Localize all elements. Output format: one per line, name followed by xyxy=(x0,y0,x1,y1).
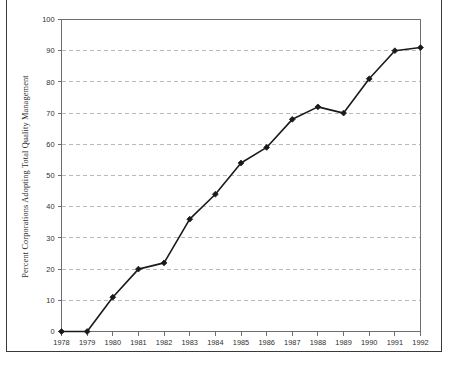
y-axis-tick-label: 100 xyxy=(42,15,54,24)
chart-page: Percent Corporations Adopting Total Qual… xyxy=(0,0,449,366)
data-point-marker xyxy=(315,104,321,110)
x-axis-tick-label: 1987 xyxy=(284,338,300,347)
data-point-marker xyxy=(59,329,65,335)
x-axis-tick-label: 1990 xyxy=(361,338,377,347)
y-axis-tick-label: 20 xyxy=(46,265,54,274)
x-axis-tick-label: 1983 xyxy=(181,338,197,347)
x-axis-ticks-group: 1978197919801981198219831984198519861987… xyxy=(53,332,428,348)
y-axis-tick-label: 80 xyxy=(46,78,54,87)
y-axis-tick-label: 60 xyxy=(46,140,54,149)
y-axis-tick-label: 10 xyxy=(46,296,54,305)
y-axis-tick-label: 40 xyxy=(46,202,54,211)
y-axis-tick-label: 90 xyxy=(46,46,54,55)
x-axis-tick-label: 1988 xyxy=(310,338,326,347)
chart-plot-svg: 0102030405060708090100 19781979198019811… xyxy=(0,0,449,366)
x-axis-tick-label: 1991 xyxy=(387,338,403,347)
x-axis-tick-label: 1982 xyxy=(156,338,172,347)
data-point-marker xyxy=(418,45,424,51)
x-axis-tick-label: 1992 xyxy=(412,338,428,347)
x-axis-tick-label: 1989 xyxy=(335,338,351,347)
x-axis-tick-label: 1984 xyxy=(207,338,223,347)
y-axis-ticks-group: 0102030405060708090100 xyxy=(42,15,61,336)
x-axis-tick-label: 1981 xyxy=(130,338,146,347)
x-axis-tick-label: 1980 xyxy=(105,338,121,347)
y-axis-tick-label: 50 xyxy=(46,171,54,180)
line-chart: Percent Corporations Adopting Total Qual… xyxy=(0,0,449,366)
x-axis-tick-label: 1986 xyxy=(258,338,274,347)
x-axis-tick-label: 1985 xyxy=(233,338,249,347)
data-series-line xyxy=(62,48,421,332)
y-axis-tick-label: 30 xyxy=(46,234,54,243)
y-axis-tick-label: 0 xyxy=(50,327,54,336)
data-line-group xyxy=(62,48,421,332)
data-markers-group xyxy=(59,45,424,335)
axes-group xyxy=(62,20,421,332)
y-axis-tick-label: 70 xyxy=(46,109,54,118)
x-axis-tick-label: 1979 xyxy=(79,338,95,347)
x-axis-tick-label: 1978 xyxy=(53,338,69,347)
